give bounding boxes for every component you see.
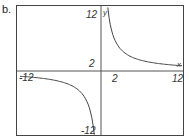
x-tick-12: 12: [172, 74, 183, 84]
hyperbola-plot: [0, 0, 189, 140]
x-tick-2: 2: [112, 74, 118, 84]
curve-right-branch: [108, 7, 182, 65]
y-tick-neg12: -12: [81, 126, 95, 136]
x-tick-neg12: -12: [19, 73, 33, 83]
y-axis-label: y: [103, 9, 107, 17]
y-tick-12: 12: [86, 10, 97, 20]
x-axis-label: x: [177, 61, 181, 69]
y-tick-2: 2: [89, 59, 95, 69]
